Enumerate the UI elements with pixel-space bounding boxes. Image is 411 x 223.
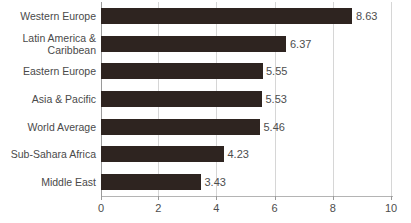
category-label: Middle East: [0, 176, 96, 189]
x-tick-mark: [333, 196, 334, 200]
x-tick-label: 4: [196, 202, 236, 215]
category-label: Sub-Sahara Africa: [0, 148, 96, 161]
bar-row: Middle East 3.43: [0, 168, 411, 196]
bar-row: Western Europe 8.63: [0, 2, 411, 30]
x-tick-label: 2: [138, 202, 178, 215]
x-tick-mark: [391, 196, 392, 200]
x-axis-line: [101, 196, 393, 197]
bar: [101, 36, 286, 52]
bar-row: Eastern Europe 5.55: [0, 57, 411, 85]
x-tick-mark: [158, 196, 159, 200]
bar: [101, 8, 352, 24]
x-tick-label: 6: [255, 202, 295, 215]
bar-value-label: 6.37: [290, 37, 311, 50]
x-tick-label: 10: [371, 202, 411, 215]
bar-value-label: 5.46: [264, 120, 285, 133]
bar-row: Sub-Sahara Africa 4.23: [0, 141, 411, 169]
x-tick-label: 8: [313, 202, 353, 215]
bar-chart: Western Europe 8.63 Latin America & Cari…: [0, 0, 411, 223]
x-tick-mark: [216, 196, 217, 200]
bar: [101, 146, 224, 162]
bar: [101, 63, 263, 79]
category-label: World Average: [0, 120, 96, 133]
bar-value-label: 5.55: [266, 65, 287, 78]
x-tick-label: 0: [81, 202, 121, 215]
category-label: Western Europe: [0, 10, 96, 23]
category-label: Eastern Europe: [0, 65, 96, 78]
bar: [101, 174, 201, 190]
bar-value-label: 3.43: [205, 176, 226, 189]
x-tick-mark: [101, 196, 102, 200]
x-tick-mark: [275, 196, 276, 200]
category-label: Asia & Pacific: [0, 93, 96, 106]
bar-row: Latin America & Caribbean 6.37: [0, 30, 411, 58]
bar-value-label: 4.23: [228, 148, 249, 161]
category-label: Latin America & Caribbean: [0, 31, 96, 56]
bar: [101, 119, 260, 135]
bar-row: Asia & Pacific 5.53: [0, 85, 411, 113]
bar-value-label: 8.63: [356, 9, 377, 22]
bar: [101, 91, 262, 107]
bar-row: World Average 5.46: [0, 113, 411, 141]
bar-value-label: 5.53: [266, 92, 287, 105]
